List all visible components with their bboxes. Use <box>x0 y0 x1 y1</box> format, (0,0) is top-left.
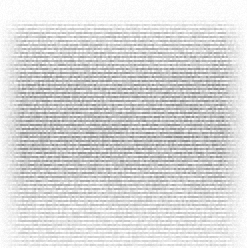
scanline-texture-image <box>0 0 247 248</box>
texture-viewport: Grayscale horizontal scanline texture wi… <box>0 0 247 248</box>
